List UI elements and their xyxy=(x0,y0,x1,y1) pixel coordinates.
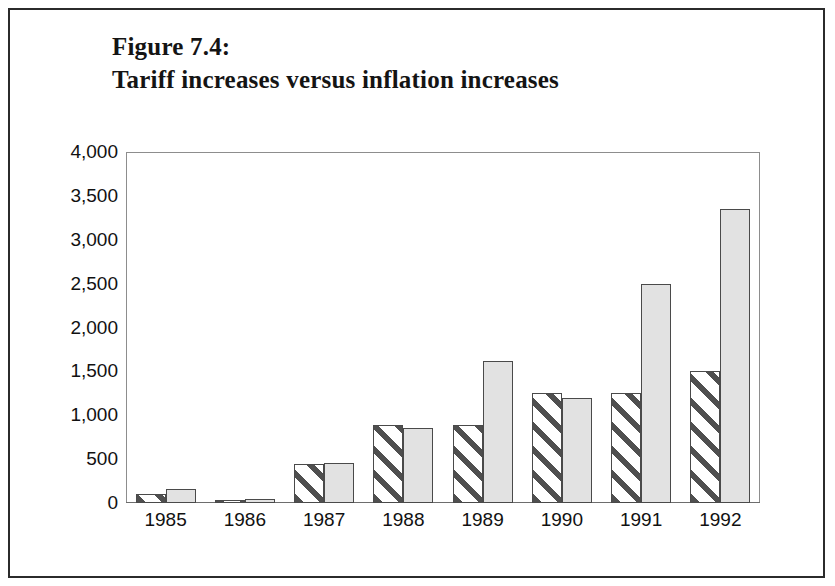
bar-inflation xyxy=(245,499,275,503)
bar-tariff xyxy=(453,425,483,503)
y-axis-tick-label: 2,500 xyxy=(52,273,118,295)
bar-group xyxy=(364,152,443,503)
y-axis-tick-label: 4,000 xyxy=(52,141,118,163)
y-axis-tick-label: 1,500 xyxy=(52,360,118,382)
x-axis-tick-label: 1987 xyxy=(285,509,364,539)
y-axis-tick-label: 2,000 xyxy=(52,317,118,339)
bar-tariff xyxy=(532,393,562,503)
x-axis-tick-label: 1991 xyxy=(602,509,681,539)
plot-area xyxy=(126,152,760,503)
y-axis-tick-label: 0 xyxy=(52,492,118,514)
bar-group xyxy=(285,152,364,503)
bar-group xyxy=(126,152,205,503)
bar-group xyxy=(443,152,522,503)
bar-inflation xyxy=(483,361,513,503)
bar-chart: 4,0003,5003,0002,5002,0001,5001,0005000 … xyxy=(0,0,835,586)
bar-group xyxy=(681,152,760,503)
y-axis-tick-label: 1,000 xyxy=(52,404,118,426)
bar-inflation xyxy=(403,428,433,503)
y-axis-tick-label: 3,000 xyxy=(52,229,118,251)
bar-tariff xyxy=(611,393,641,503)
figure-page: Figure 7.4: Tariff increases versus infl… xyxy=(0,0,835,586)
bar-inflation xyxy=(166,489,196,503)
bar-tariff xyxy=(690,371,720,503)
x-axis: 19851986198719881989199019911992 xyxy=(126,509,760,539)
y-axis-tick-label: 500 xyxy=(52,448,118,470)
bar-group xyxy=(602,152,681,503)
bar-tariff xyxy=(215,500,245,504)
bar-inflation xyxy=(324,463,354,503)
bar-group xyxy=(205,152,284,503)
x-axis-tick-label: 1988 xyxy=(364,509,443,539)
x-axis-tick-label: 1989 xyxy=(443,509,522,539)
y-axis: 4,0003,5003,0002,5002,0001,5001,0005000 xyxy=(52,152,118,503)
bar-tariff xyxy=(136,494,166,503)
bar-inflation xyxy=(562,398,592,503)
y-axis-tick-label: 3,500 xyxy=(52,185,118,207)
x-axis-tick-label: 1986 xyxy=(205,509,284,539)
bar-inflation xyxy=(641,284,671,503)
bar-inflation xyxy=(720,209,750,503)
x-axis-tick-label: 1992 xyxy=(681,509,760,539)
x-axis-tick-label: 1985 xyxy=(126,509,205,539)
bar-tariff xyxy=(373,425,403,503)
x-axis-tick-label: 1990 xyxy=(522,509,601,539)
bar-tariff xyxy=(294,464,324,503)
bar-group xyxy=(522,152,601,503)
